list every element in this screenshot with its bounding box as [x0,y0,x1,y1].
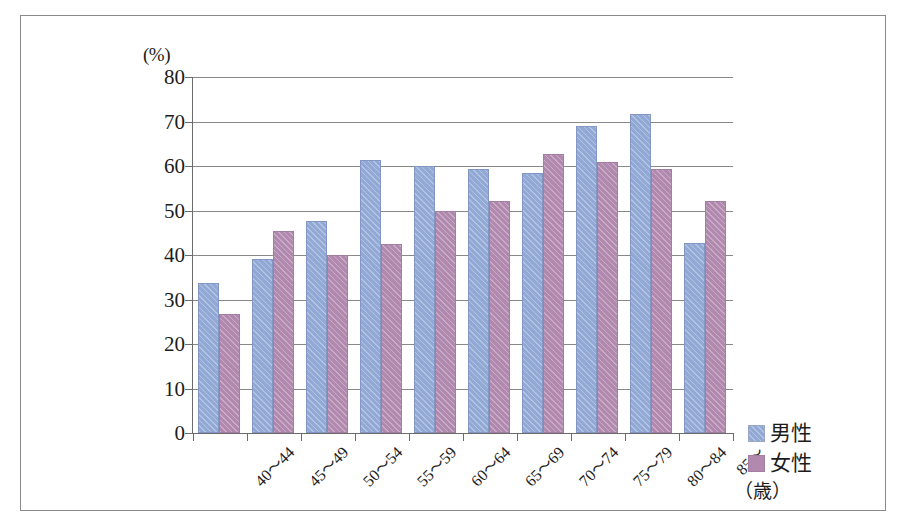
legend-swatch-icon [748,455,765,472]
bar-male[interactable] [360,160,381,433]
figure-frame: (%) 80706050403020100 40～4445～4950～5455～… [20,15,886,511]
y-tick-label-70: 70 [139,109,185,134]
x-tick-label: 55～59 [410,440,461,491]
x-tick-label: 75～79 [626,440,677,491]
bar-group [355,77,409,433]
bar-female[interactable] [597,162,618,433]
x-tick-label: 50～54 [356,440,407,491]
x-tick-label: 60～64 [464,440,515,491]
bar-male[interactable] [630,114,651,434]
y-tick-label-0: 0 [139,421,185,446]
x-tick-label: 80～84 [680,440,731,491]
bar-group [193,77,247,433]
bar-male[interactable] [576,126,597,433]
bar-group [409,77,463,433]
bar-female[interactable] [651,169,672,433]
y-axis-tick-labels: 80706050403020100 [133,16,185,529]
bar-male[interactable] [468,169,489,433]
y-tick-label-20: 20 [139,332,185,357]
bar-female[interactable] [273,231,294,433]
bar-group [463,77,517,433]
legend-item[interactable]: 男性 [748,418,812,448]
y-tick-mark-0 [185,433,193,434]
bar-female[interactable] [327,255,348,433]
bar-female[interactable] [435,211,456,434]
bar-group [679,77,733,433]
y-tick-mark-10 [185,389,193,390]
bar-female[interactable] [705,201,726,433]
x-axis-unit-label: （歳） [734,476,791,503]
legend-swatch-icon [748,425,765,442]
bar-female[interactable] [543,154,564,433]
y-tick-label-40: 40 [139,243,185,268]
x-tick-label: 45～49 [302,440,353,491]
x-tick-label: 40～44 [248,440,299,491]
y-tick-mark-60 [185,166,193,167]
bar-male[interactable] [306,221,327,433]
x-tick-label: 65～69 [518,440,569,491]
plot-area [193,77,733,433]
bar-group [517,77,571,433]
y-tick-mark-70 [185,122,193,123]
legend-label: 男性 [770,423,812,444]
y-tick-label-60: 60 [139,154,185,179]
y-tick-label-50: 50 [139,198,185,223]
y-tick-mark-30 [185,300,193,301]
y-tick-mark-20 [185,344,193,345]
y-tick-label-10: 10 [139,376,185,401]
bar-group [301,77,355,433]
y-tick-label-80: 80 [139,65,185,90]
chart-legend: 男性女性 [748,418,812,478]
legend-label: 女性 [770,453,812,474]
bar-group [571,77,625,433]
y-tick-mark-80 [185,77,193,78]
y-tick-mark-50 [185,211,193,212]
bar-group [625,77,679,433]
legend-item[interactable]: 女性 [748,448,812,478]
x-axis-tick-labels: 40～4445～4950～5455～5960～6465～6970～7475～79… [193,440,753,520]
bar-female[interactable] [381,244,402,433]
bar-male[interactable] [198,283,219,433]
bar-male[interactable] [522,173,543,433]
bar-female[interactable] [489,201,510,433]
bar-male[interactable] [684,243,705,433]
y-tick-mark-40 [185,255,193,256]
bar-group [247,77,301,433]
y-tick-label-30: 30 [139,287,185,312]
bar-female[interactable] [219,314,240,433]
bar-male[interactable] [414,166,435,433]
bar-male[interactable] [252,259,273,433]
x-tick-label: 70～74 [572,440,623,491]
